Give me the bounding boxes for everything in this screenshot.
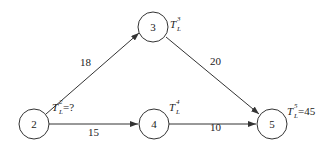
edge-label-2-4: 15 <box>88 126 100 138</box>
svg-text:=?: =? <box>63 101 74 113</box>
svg-text:T: T <box>287 105 294 117</box>
edge-label-4-5: 10 <box>210 121 222 133</box>
edge-3-5 <box>166 37 259 114</box>
annotation-node-4: T 4 L <box>169 98 180 116</box>
svg-text:=45: =45 <box>298 105 316 117</box>
svg-text:T: T <box>170 18 177 30</box>
svg-text:4: 4 <box>176 98 180 106</box>
svg-text:L: L <box>176 25 181 33</box>
annotation-node-3: T 3 L <box>170 15 181 33</box>
edge-label-3-5: 20 <box>210 55 222 67</box>
annotation-node-2: T 2 L =? <box>52 98 74 116</box>
node-4-label: 4 <box>151 118 157 130</box>
node-3-label: 3 <box>150 21 156 33</box>
svg-text:T: T <box>52 101 59 113</box>
network-diagram: 18 15 20 10 2 3 4 5 T 2 L =? T 3 L T 4 L… <box>0 0 328 145</box>
svg-text:T: T <box>169 101 176 113</box>
annotation-node-5: T 5 L =45 <box>287 102 316 120</box>
edge-label-2-3: 18 <box>80 56 92 68</box>
svg-text:3: 3 <box>176 15 181 23</box>
node-3: 3 <box>138 12 168 42</box>
node-5-label: 5 <box>269 118 275 130</box>
node-4: 4 <box>139 109 169 139</box>
node-5: 5 <box>257 109 287 139</box>
node-2-label: 2 <box>31 118 37 130</box>
node-2: 2 <box>19 109 49 139</box>
svg-text:L: L <box>175 108 180 116</box>
